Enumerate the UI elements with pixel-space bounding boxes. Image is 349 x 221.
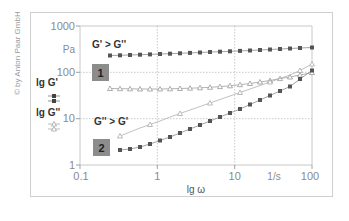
legend-gdoubleprime-label: lg G'' [36,107,60,118]
y-unit: Pa [63,44,76,55]
xtick-0.1: 0.1 [73,170,88,182]
legend-gprime-label: lg G' [36,77,58,88]
xtick-100: 100 [301,170,319,182]
ytick-100: 100 [57,66,75,78]
region1-badge-text: 1 [97,67,103,79]
ytick-1000: 1000 [51,20,75,32]
series-gprime-1 [108,46,314,58]
region2-label: G'' > G' [94,116,128,127]
chart: 1000 Pa 100 10 1 0.1 1 10 1/s 100 lg ω [0,0,349,221]
series-gdoubleprime-1 [108,70,315,91]
region1-label: G' > G'' [92,39,126,50]
legend: lg G' lg G'' [36,77,60,131]
ytick-10: 10 [63,112,75,124]
region2-badge-text: 2 [98,142,104,154]
legend-square-icon [52,94,56,98]
xtick-1: 1 [154,170,160,182]
series-gprime-2 [118,69,314,153]
legend-square-icon [52,99,56,103]
x-unit: 1/s [267,171,280,182]
x-axis-label: lg ω [187,184,206,195]
xtick-10: 10 [229,170,241,182]
series-gdoubleprime-2 [118,62,315,139]
